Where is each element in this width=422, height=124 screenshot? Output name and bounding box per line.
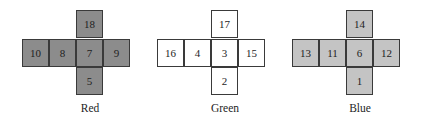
blue-row-face-4: 12 bbox=[373, 39, 400, 67]
blue-bottom-face: 1 bbox=[346, 67, 373, 95]
blue-cube-net: 14 13 11 6 12 1 Blue bbox=[0, 0, 422, 124]
blue-top-face: 14 bbox=[346, 10, 373, 38]
blue-row-face-1: 13 bbox=[292, 39, 319, 67]
blue-row-face-2: 11 bbox=[319, 39, 346, 67]
blue-label: Blue bbox=[330, 102, 390, 114]
blue-row-face-3: 6 bbox=[346, 39, 373, 67]
